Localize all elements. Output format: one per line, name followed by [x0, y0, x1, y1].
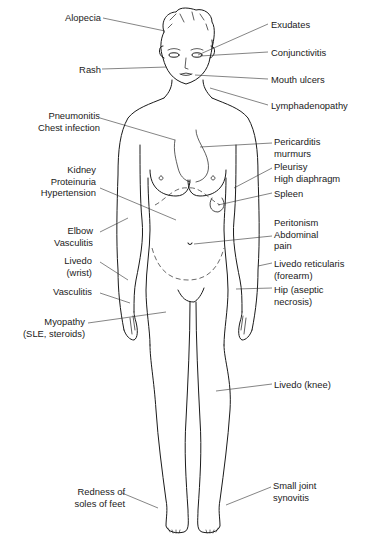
label-livedo-knee: Livedo (knee) — [274, 379, 331, 391]
label-conjunctivitis: Conjunctivitis — [271, 47, 326, 59]
label-livedo-wrist: Livedo (wrist) — [64, 255, 92, 278]
label-livedo-forearm: Livedo reticularis (forearm) — [274, 258, 344, 281]
label-rash: Rash — [79, 64, 101, 76]
label-redness-soles: Redness of soles of feet — [74, 486, 125, 509]
label-myopathy: Myopathy (SLE, steroids) — [23, 316, 85, 339]
label-lymphadenopathy: Lymphadenopathy — [271, 100, 348, 112]
label-mouth-ulcers: Mouth ulcers — [271, 74, 325, 86]
label-alopecia: Alopecia — [65, 12, 101, 24]
label-pleurisy: Pleurisy High diaphragm — [274, 161, 340, 184]
label-hip: Hip (aseptic necrosis) — [274, 284, 324, 307]
label-pneumonitis: Pneumonitis Chest infection — [38, 110, 100, 133]
label-elbow-vasculitis: Elbow Vasculitis — [54, 225, 93, 248]
label-vasculitis: Vasculitis — [53, 286, 92, 298]
label-kidney: Kidney Proteinuria Hypertension — [41, 164, 96, 199]
label-pericarditis: Pericarditis murmurs — [274, 136, 320, 159]
label-spleen: Spleen — [274, 188, 303, 200]
label-exudates: Exudates — [271, 19, 310, 31]
label-peritonism: Peritonism Abdominal pain — [274, 217, 318, 252]
label-small-joint: Small joint synovitis — [273, 480, 316, 503]
body-diagram: Alopecia Rash Pneumonitis Chest infectio… — [0, 0, 369, 548]
